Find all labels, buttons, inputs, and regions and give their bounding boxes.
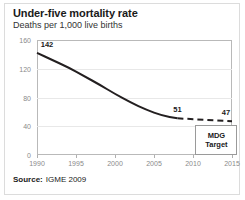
x-tick-mark bbox=[115, 155, 116, 158]
y-tick-label: 0 bbox=[0, 152, 31, 159]
x-tick-label: 2010 bbox=[185, 160, 201, 167]
y-tick-label: 80 bbox=[0, 94, 31, 101]
x-tick-label: 1990 bbox=[29, 160, 45, 167]
y-tick-label: 160 bbox=[0, 37, 31, 44]
x-tick-mark bbox=[232, 155, 233, 158]
data-point-label: 51 bbox=[173, 105, 181, 114]
data-point-label: 47 bbox=[222, 108, 230, 117]
mortality-line bbox=[37, 53, 177, 118]
source-label: Source: bbox=[13, 175, 43, 184]
y-tick-label: 40 bbox=[0, 123, 31, 130]
x-tick-label: 1995 bbox=[68, 160, 84, 167]
mdg-target-line1: MDG bbox=[208, 131, 226, 140]
chart-figure: Under-five mortality rate Deaths per 1,0… bbox=[0, 0, 245, 200]
projection-line bbox=[177, 118, 232, 121]
mdg-target-callout: MDG Target bbox=[195, 125, 237, 155]
x-tick-mark bbox=[154, 155, 155, 158]
x-tick-label: 2000 bbox=[107, 160, 123, 167]
x-tick-label: 2015 bbox=[224, 160, 240, 167]
x-tick-mark bbox=[37, 155, 38, 158]
chart-subtitle: Deaths per 1,000 live births bbox=[13, 20, 123, 30]
data-point-label: 142 bbox=[41, 40, 54, 49]
source-value: IGME 2009 bbox=[46, 175, 86, 184]
mdg-target-line2: Target bbox=[205, 140, 227, 149]
x-tick-mark bbox=[76, 155, 77, 158]
chart-title: Under-five mortality rate bbox=[13, 7, 138, 19]
x-tick-label: 2005 bbox=[146, 160, 162, 167]
source-note: Source:IGME 2009 bbox=[13, 175, 86, 184]
y-tick-label: 120 bbox=[0, 65, 31, 72]
x-tick-mark bbox=[193, 155, 194, 158]
